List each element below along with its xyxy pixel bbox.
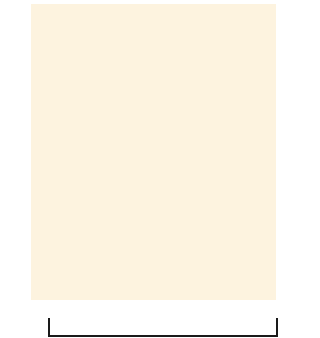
repeat-bracket — [48, 318, 278, 337]
knitting-chart-grid — [31, 4, 276, 300]
